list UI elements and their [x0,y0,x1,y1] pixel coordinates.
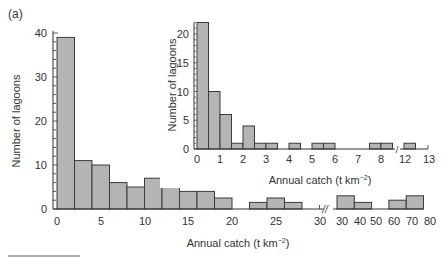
y-tick-label: 10 [35,159,47,171]
x-tick-label: 12 [399,153,411,165]
panel-a-label: (a) [8,7,23,21]
bar-a-8-10 [127,187,145,209]
bar-a-2-4 [75,161,93,209]
bar-b-5-5.5 [312,143,324,149]
bar-a-26-28 [285,202,303,209]
bar-a-12-14 [162,185,180,209]
x-tick-label: 15 [182,215,194,227]
x-tick-label: 70 [406,215,418,227]
x-tick-label: 6 [332,153,338,165]
x-tick-label: 3 [263,153,269,165]
x-tick-label: 20 [226,215,238,227]
bar-a-4-6 [92,165,110,209]
x-tick-label: 8 [378,153,384,165]
chart-b: Number of lagoons 05101520 /012345678121… [160,10,444,188]
bar-a-40-50 [354,202,371,209]
bar-a-14-16 [180,191,198,209]
bar-b-2.5-3 [255,143,267,149]
bar-b-0.5-1 [209,92,221,150]
x-tick-label: 5 [98,215,104,227]
x-tick-label: 30 [336,215,348,227]
figure: (a) (b) Number of lagoons 010203040 //05… [0,0,444,258]
y-axis-a: 010203040 [35,27,58,215]
x-tick-label: 60 [388,215,400,227]
y-axis-label-a: Number of lagoons [10,74,22,167]
x-axis-label-a: Annual catch (t km−2) [187,237,290,249]
y-tick-label: 10 [177,86,189,98]
bar-b-8-8.5 [381,143,393,149]
x-tick-label: 30 [314,215,326,227]
y-tick-label: 30 [35,71,47,83]
bar-b-5.5-6 [324,143,336,149]
y-tick-label: 20 [177,28,189,40]
y-tick-label: 40 [35,27,47,39]
y-tick-label: 15 [177,57,189,69]
x-tick-label: 7 [355,153,361,165]
x-tick-label: 5 [309,153,315,165]
bar-b-4-4.5 [289,143,301,149]
x-tick-label: 40 [354,215,366,227]
bar-b-1-1.5 [220,115,232,150]
bar-b-1.5-2 [232,143,244,149]
bar-b-3-3.5 [266,143,278,149]
bar-a-30-40 [337,196,354,209]
y-tick-label: 5 [183,114,189,126]
bar-b-0-0.5 [197,23,209,150]
bar-a-22-24 [250,202,268,209]
x-tick-label: 0 [54,215,60,227]
bar-a-0-2 [57,37,75,209]
bar-b-2-2.5 [243,126,255,149]
bar-a-6-8 [110,183,128,209]
x-tick-label: 1 [217,153,223,165]
bar-a-24-26 [267,198,285,209]
x-tick-label: 2 [240,153,246,165]
bar-a-16-18 [197,191,215,209]
x-tick-label: 25 [270,215,282,227]
axis-break-icon: // [321,204,329,215]
bar-a-60-70 [389,200,406,209]
bar-a-10-12 [145,178,163,209]
x-axis-label-b: Annual catch (t km−2) [269,174,372,186]
bar-b-7.5-8 [370,143,382,149]
x-tick-label: 10 [139,215,151,227]
y-tick-label: 0 [183,143,189,155]
x-tick-label: 4 [286,153,292,165]
x-tick-label: 0 [194,153,200,165]
x-tick-label: 50 [370,215,382,227]
bar-b-12-12.5 [404,143,416,149]
x-tick-label: 13 [423,153,435,165]
bar-a-18-20 [215,198,233,209]
bar-a-70-80 [406,196,423,209]
x-tick-label: 80 [424,215,436,227]
y-tick-label: 20 [35,115,47,127]
y-tick-label: 0 [41,203,47,215]
